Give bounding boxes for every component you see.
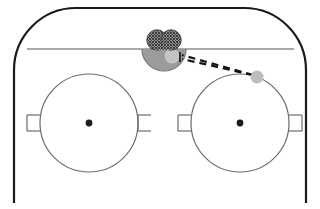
- goal-net-mouth: [155, 45, 173, 50]
- faceoff-dot-left: [86, 120, 93, 127]
- goalie-marker: [165, 49, 180, 64]
- hockey-rink-diagram: [0, 0, 320, 209]
- faceoff-dot-right: [237, 120, 244, 127]
- puck-marker: [251, 71, 264, 84]
- goal-net-group: [147, 30, 181, 50]
- rink-canvas: [0, 0, 320, 209]
